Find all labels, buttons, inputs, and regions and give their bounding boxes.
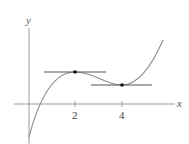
y-axis-label: y bbox=[25, 14, 31, 26]
x-axis-label: x bbox=[176, 97, 182, 109]
local-max-point bbox=[73, 70, 77, 74]
graph: y x 2 4 bbox=[0, 0, 189, 144]
local-min-point bbox=[120, 83, 124, 87]
function-curve bbox=[29, 40, 163, 137]
tick-label-4: 4 bbox=[119, 109, 125, 121]
tick-label-2: 2 bbox=[72, 109, 78, 121]
